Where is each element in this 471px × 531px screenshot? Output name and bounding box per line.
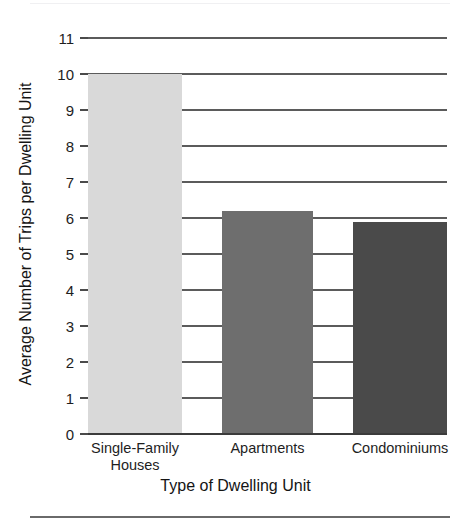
y-axis-tick bbox=[80, 433, 88, 435]
x-axis-category-label-line: Apartments bbox=[194, 440, 341, 457]
y-axis-tick bbox=[80, 289, 88, 291]
x-axis-category-label: Condominiums bbox=[325, 440, 471, 457]
x-axis-baseline bbox=[84, 433, 447, 435]
x-axis-category-label: Apartments bbox=[194, 440, 341, 457]
y-axis-tick bbox=[80, 217, 88, 219]
bar bbox=[88, 74, 182, 434]
bar-chart: 01234567891011 Single-FamilyHousesApartm… bbox=[0, 0, 471, 531]
y-axis-tick-label: 7 bbox=[50, 175, 74, 190]
y-axis-tick bbox=[80, 145, 88, 147]
x-axis-category-label: Single-FamilyHouses bbox=[60, 440, 210, 474]
y-axis-tick bbox=[80, 73, 88, 75]
y-axis-tick-label: 10 bbox=[50, 67, 74, 82]
x-axis-category-label-line: Houses bbox=[60, 457, 210, 474]
y-axis-tick-label: 5 bbox=[50, 247, 74, 262]
y-axis-tick-label: 6 bbox=[50, 211, 74, 226]
y-axis-tick bbox=[80, 181, 88, 183]
y-axis-tick bbox=[80, 325, 88, 327]
y-axis-tick-label: 4 bbox=[50, 283, 74, 298]
y-axis-tick bbox=[80, 253, 88, 255]
y-axis-tick-label: 1 bbox=[50, 391, 74, 406]
y-axis-tick-label: 8 bbox=[50, 139, 74, 154]
y-axis-tick bbox=[80, 109, 88, 111]
y-axis-tick bbox=[80, 37, 88, 39]
y-axis-tick-label: 9 bbox=[50, 103, 74, 118]
y-axis-title: Average Number of Trips per Dwelling Uni… bbox=[17, 69, 35, 399]
y-axis-tick bbox=[80, 361, 88, 363]
figure-bottom-rule bbox=[30, 516, 450, 518]
y-axis-tick-label: 3 bbox=[50, 319, 74, 334]
x-axis-category-label-line: Condominiums bbox=[325, 440, 471, 457]
y-axis-tick-label: 11 bbox=[50, 31, 74, 46]
bar bbox=[222, 211, 313, 434]
x-axis-title: Type of Dwelling Unit bbox=[0, 477, 471, 495]
x-axis-category-label-line: Single-Family bbox=[60, 440, 210, 457]
bar bbox=[353, 222, 447, 434]
y-axis-tick bbox=[80, 397, 88, 399]
y-axis-tick-label: 2 bbox=[50, 355, 74, 370]
